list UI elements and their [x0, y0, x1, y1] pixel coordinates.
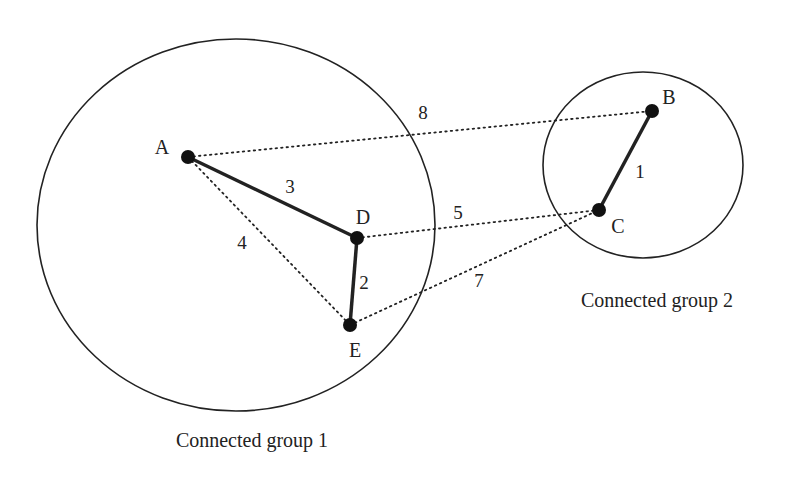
node-B [645, 104, 659, 118]
node-A [181, 150, 195, 164]
node-label-B: B [662, 86, 675, 108]
group-2-label: Connected group 2 [581, 289, 733, 312]
graph-diagram: Connected group 1Connected group 2321485… [0, 0, 787, 486]
group-1-label: Connected group 1 [176, 429, 328, 452]
node-label-E: E [349, 339, 361, 361]
edge-DE [350, 238, 357, 325]
node-D [350, 231, 364, 245]
edge-weight-DC: 5 [453, 202, 463, 223]
group-1-boundary [37, 39, 435, 411]
node-label-D: D [356, 206, 370, 228]
edge-weight-AE: 4 [237, 232, 247, 253]
node-label-C: C [611, 215, 624, 237]
edge-weight-EC: 7 [474, 270, 484, 291]
edge-EC [350, 210, 599, 325]
edge-weight-AB: 8 [418, 102, 428, 123]
edge-weight-AD: 3 [285, 176, 295, 197]
edge-weight-DE: 2 [359, 272, 369, 293]
edge-weight-BC: 1 [635, 161, 645, 182]
node-C [592, 203, 606, 217]
node-E [343, 318, 357, 332]
edge-AE [188, 157, 350, 325]
edge-AD [188, 157, 357, 238]
edge-DC [357, 210, 599, 238]
node-label-A: A [155, 136, 170, 158]
